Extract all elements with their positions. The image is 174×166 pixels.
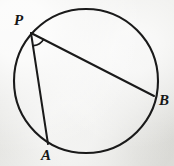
vertex-label-b: B (159, 93, 169, 108)
chord-p-to-b (31, 33, 154, 96)
chord-p-to-a (31, 33, 48, 144)
angle-arc-icon (34, 39, 44, 45)
geometry-drawing (0, 0, 174, 166)
vertex-label-a: A (41, 148, 51, 163)
geometry-figure: P A B (0, 0, 174, 166)
circle-outline (14, 9, 158, 153)
vertex-label-p: P (14, 13, 23, 28)
